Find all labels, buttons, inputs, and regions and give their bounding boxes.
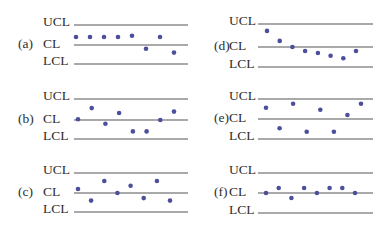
ucl-label: UCL bbox=[43, 14, 70, 29]
data-point bbox=[155, 179, 160, 184]
data-point bbox=[328, 53, 333, 58]
data-point bbox=[315, 191, 320, 196]
panel-label: (d) bbox=[214, 38, 230, 53]
cl-label: CL bbox=[43, 36, 60, 51]
data-point bbox=[277, 126, 282, 131]
data-point bbox=[76, 117, 81, 122]
lcl-label: LCL bbox=[229, 202, 255, 217]
data-point bbox=[102, 179, 107, 184]
data-point bbox=[115, 191, 120, 196]
data-point bbox=[103, 122, 108, 127]
data-point bbox=[89, 106, 94, 111]
data-point bbox=[88, 35, 93, 40]
cl-label: CL bbox=[43, 111, 60, 126]
data-point bbox=[102, 35, 107, 40]
lcl-label: LCL bbox=[229, 56, 255, 71]
data-point bbox=[277, 39, 282, 44]
data-point bbox=[74, 35, 79, 40]
panel-label: (a) bbox=[18, 36, 33, 51]
data-point bbox=[128, 183, 133, 188]
data-point bbox=[316, 51, 321, 56]
data-point bbox=[304, 129, 309, 134]
panel-label: (f) bbox=[214, 184, 228, 199]
panel-label: (e) bbox=[214, 110, 229, 125]
cl-label: CL bbox=[229, 184, 246, 199]
data-point bbox=[117, 111, 122, 116]
data-point bbox=[318, 107, 323, 112]
data-point bbox=[340, 186, 345, 191]
control-charts-figure: (a)UCLCLLCL(b)UCLCLLCL(c)UCLCLLCL(d)UCLC… bbox=[0, 0, 389, 225]
data-point bbox=[172, 109, 177, 114]
data-point bbox=[276, 186, 281, 191]
data-point bbox=[144, 47, 149, 52]
data-point bbox=[264, 105, 269, 110]
data-point bbox=[290, 45, 295, 50]
data-point bbox=[168, 198, 173, 203]
ucl-label: UCL bbox=[43, 162, 70, 177]
cl-label: CL bbox=[229, 38, 246, 53]
data-point bbox=[158, 35, 163, 40]
data-point bbox=[327, 186, 332, 191]
data-point bbox=[158, 118, 163, 123]
data-point bbox=[353, 191, 358, 196]
ucl-label: UCL bbox=[229, 88, 256, 103]
data-point bbox=[144, 129, 149, 134]
data-point bbox=[289, 196, 294, 201]
ucl-label: UCL bbox=[43, 88, 70, 103]
control-chart-panel-b: (b)UCLCLLCL bbox=[18, 88, 188, 143]
data-point bbox=[341, 56, 346, 61]
cl-label: CL bbox=[229, 110, 246, 125]
data-point bbox=[265, 29, 270, 34]
panel-label: (b) bbox=[18, 111, 34, 126]
data-point bbox=[303, 49, 308, 54]
data-point bbox=[264, 191, 269, 196]
panel-label: (c) bbox=[18, 184, 33, 199]
data-point bbox=[131, 129, 136, 134]
lcl-label: LCL bbox=[43, 201, 69, 216]
data-point bbox=[76, 187, 81, 192]
control-chart-panel-f: (f)UCLCLLCL bbox=[214, 162, 373, 217]
control-chart-panel-e: (e)UCLCLLCL bbox=[214, 88, 373, 143]
data-point bbox=[332, 129, 337, 134]
data-point bbox=[130, 33, 135, 38]
ucl-label: UCL bbox=[229, 162, 256, 177]
data-point bbox=[291, 101, 296, 106]
data-point bbox=[354, 49, 359, 54]
control-chart-panel-d: (d)UCLCLLCL bbox=[214, 13, 373, 71]
data-point bbox=[116, 35, 121, 40]
ucl-label: UCL bbox=[229, 13, 256, 28]
cl-label: CL bbox=[43, 184, 60, 199]
lcl-label: LCL bbox=[43, 128, 69, 143]
data-point bbox=[141, 196, 146, 201]
data-point bbox=[302, 186, 307, 191]
data-point bbox=[172, 50, 177, 55]
data-point bbox=[345, 113, 350, 118]
control-chart-panel-c: (c)UCLCLLCL bbox=[18, 162, 188, 216]
control-chart-panel-a: (a)UCLCLLCL bbox=[18, 14, 188, 68]
lcl-label: LCL bbox=[43, 53, 69, 68]
data-point bbox=[359, 101, 364, 106]
lcl-label: LCL bbox=[229, 128, 255, 143]
data-point bbox=[89, 198, 94, 203]
